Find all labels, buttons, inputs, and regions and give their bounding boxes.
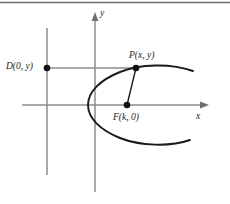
figure-canvas [0,0,230,204]
x-axis-arrowhead [200,102,209,109]
point-label-f: F(k, 0) [113,113,139,123]
point-d-marker [44,65,51,72]
parabola-figure: D(0, y) P(x, y) F(k, 0) x y [0,0,230,204]
x-axis-label: x [196,112,200,122]
point-f-marker [124,102,131,109]
y-axis-label: y [100,9,104,19]
y-axis-arrowhead [92,12,99,21]
segment-p-to-f [127,68,136,105]
point-label-d: D(0, y) [6,62,33,72]
point-p-marker [133,65,140,72]
point-label-p: P(x, y) [129,51,154,61]
